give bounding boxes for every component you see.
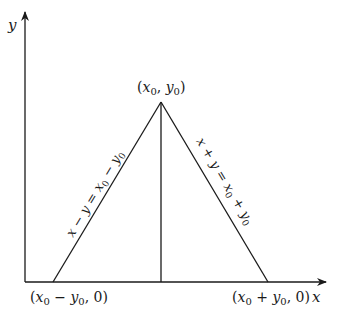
left-edge-equation: x − y = x0 − y0	[63, 147, 128, 240]
right-edge-line	[161, 102, 268, 282]
right-base-label: (x0 + y0, 0)	[232, 289, 310, 307]
y-axis-label: y	[7, 16, 17, 34]
right-edge-equation: x + y = x0 + y0	[192, 135, 257, 228]
characteristic-triangle-diagram: y x (x0, y0) (x0 − y0, 0) (x0 + y0, 0) x…	[0, 0, 340, 322]
left-edge-line	[53, 102, 161, 282]
apex-label: (x0, y0)	[137, 79, 185, 97]
left-base-label: (x0 − y0, 0)	[30, 289, 108, 307]
x-axis-label: x	[312, 288, 321, 306]
